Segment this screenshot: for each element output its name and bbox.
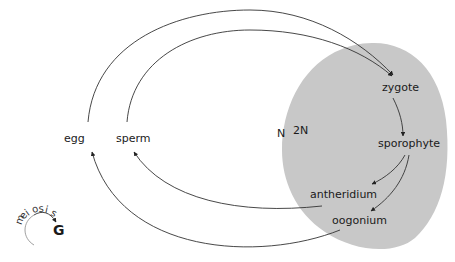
- label-egg: egg: [64, 132, 85, 145]
- label-antheridium: antheridium: [310, 188, 377, 201]
- label-haploid: N: [277, 127, 285, 140]
- label-zygote: zygote: [382, 81, 419, 94]
- label-sporophyte: sporophyte: [378, 137, 440, 150]
- label-sperm: sperm: [116, 132, 151, 145]
- meiosis-symbol: G: [53, 222, 65, 238]
- label-diploid: 2N: [293, 124, 308, 137]
- label-oogonium: oogonium: [332, 214, 387, 227]
- meiosis-legend: meiosis G: [13, 203, 65, 245]
- life-cycle-diagram: egg sperm N 2N zygote sporophyte antheri…: [0, 0, 455, 262]
